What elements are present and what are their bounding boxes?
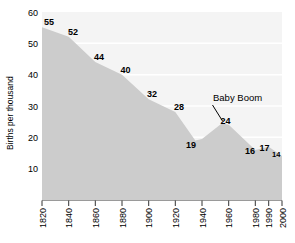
data-label-28: 28: [174, 102, 184, 112]
data-label-17: 17: [260, 143, 270, 153]
data-label-40: 40: [121, 65, 131, 75]
data-label-16: 16: [245, 146, 255, 156]
y-tick-label-10: 10: [28, 164, 38, 174]
baby-boom-annotation-label: Baby Boom: [213, 92, 262, 103]
births-per-thousand-area-chart: 60 50 40 30 20 10 Births per thousand 18…: [0, 0, 295, 243]
chart-canvas: 60 50 40 30 20 10 Births per thousand 18…: [0, 0, 295, 243]
x-tick-label-1840: 1840: [64, 208, 74, 228]
x-tick-label-1920: 1920: [171, 208, 181, 228]
x-tick-label-1860: 1860: [91, 208, 101, 228]
x-tick-label-1820: 1820: [38, 208, 48, 228]
y-axis-title: Births per thousand: [5, 76, 15, 150]
y-tick-label-30: 30: [28, 102, 38, 112]
x-tick-marks: [42, 201, 282, 207]
y-tick-label-40: 40: [28, 70, 38, 80]
x-tick-label-1900: 1900: [144, 208, 154, 228]
x-tick-label-1990: 1990: [264, 208, 274, 228]
x-tick-label-1980: 1980: [251, 208, 261, 228]
x-tick-label-1940: 1940: [198, 208, 208, 228]
data-label-52: 52: [68, 27, 78, 37]
y-tick-label-50: 50: [28, 39, 38, 49]
data-label-44: 44: [94, 52, 104, 62]
x-tick-label-2000: 2000: [278, 208, 288, 228]
data-label-14: 14: [272, 150, 281, 159]
y-tick-label-20: 20: [28, 133, 38, 143]
data-label-55: 55: [44, 17, 54, 27]
data-label-19: 19: [186, 140, 196, 150]
x-tick-label-1880: 1880: [118, 208, 128, 228]
y-tick-label-60: 60: [28, 8, 38, 18]
x-tick-label-1960: 1960: [224, 208, 234, 228]
data-label-32: 32: [147, 89, 157, 99]
